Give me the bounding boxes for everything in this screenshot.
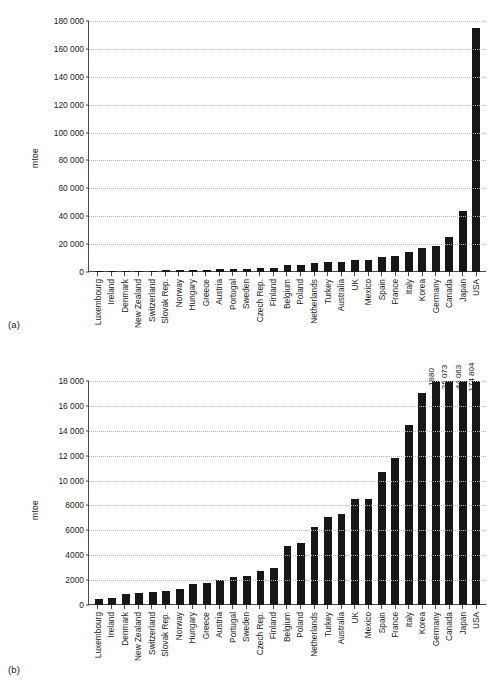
- x-tickmark: [124, 605, 125, 609]
- bar-slot: [173, 381, 186, 605]
- bar: [418, 248, 426, 272]
- x-tickmark: [219, 272, 220, 276]
- x-tickmark: [476, 272, 477, 276]
- bar: [135, 593, 143, 605]
- x-tickmark-slot: [375, 272, 389, 276]
- gridline: [89, 555, 486, 556]
- x-tickmark: [286, 605, 287, 609]
- bar-slot: [200, 381, 213, 605]
- x-tick-label: Switzerland: [148, 279, 156, 322]
- x-tick-label: Poland: [296, 279, 304, 305]
- x-tick-label: Sweden: [242, 612, 250, 642]
- bar: [216, 580, 224, 605]
- gridline: [89, 77, 486, 78]
- x-tickmark: [259, 605, 260, 609]
- x-tick-label: Greece: [202, 279, 210, 306]
- x-tick-label: Korea: [418, 612, 426, 634]
- bar-slot: [470, 21, 483, 272]
- x-tick-label: Canada: [445, 279, 453, 308]
- x-tickmark-slot: [361, 605, 375, 609]
- gridline: [89, 580, 486, 581]
- x-tickmark-slot: [186, 605, 200, 609]
- bar-slot: [227, 381, 240, 605]
- bar-slot: [119, 381, 132, 605]
- x-tickmark: [232, 605, 233, 609]
- y-tick-label: 180 000: [54, 17, 89, 25]
- bar-slot: 174 804: [470, 381, 483, 605]
- x-tick-label: Finland: [269, 612, 277, 639]
- bar-slot: [416, 21, 429, 272]
- gridline: [89, 160, 486, 161]
- x-tickmark: [286, 272, 287, 276]
- x-tick-label: Italy: [404, 279, 412, 294]
- x-tickmark: [138, 272, 139, 276]
- x-tick-label: Japan: [459, 279, 467, 302]
- x-tickmark: [192, 605, 193, 609]
- bar-value-label: 44 063: [455, 365, 463, 389]
- x-tick-label: Australia: [337, 612, 345, 644]
- bar-slot: [362, 21, 375, 272]
- x-tick-label: UK: [350, 612, 358, 624]
- gridline: [89, 431, 486, 432]
- x-tickmark-slot: [105, 272, 119, 276]
- x-tickmark: [395, 272, 396, 276]
- x-tickmarks-a: [88, 272, 486, 276]
- x-tickmark: [476, 605, 477, 609]
- x-tick-label: Belgium: [283, 279, 291, 309]
- bar-slot: 25 073: [443, 381, 456, 605]
- bar-slot: [105, 381, 118, 605]
- x-tick-label: Portugal: [229, 612, 237, 643]
- x-tickmark-slot: [118, 605, 132, 609]
- x-tickmark-slot: [186, 272, 200, 276]
- bar: [405, 252, 413, 272]
- x-tickmark-slot: [159, 605, 173, 609]
- bar-slot: [416, 381, 429, 605]
- x-tickmark-slot: [105, 605, 119, 609]
- bar-value-label: 1980: [428, 368, 436, 386]
- x-tickmark-slot: [402, 605, 416, 609]
- bar: [176, 589, 184, 605]
- bar: 44 063: [459, 381, 467, 605]
- bar-slot: [227, 21, 240, 272]
- x-tickmark: [435, 272, 436, 276]
- bar-slot: [159, 21, 172, 272]
- bar: [189, 584, 197, 605]
- x-tickmark: [246, 272, 247, 276]
- x-tickmark: [205, 272, 206, 276]
- x-tickmark-slot: [456, 605, 470, 609]
- bar-slot: [375, 21, 388, 272]
- plot-area-a: 020 00040 00060 00080 000100 000120 0001…: [88, 21, 486, 272]
- gridline: [89, 188, 486, 189]
- x-tickmark-slot: [469, 272, 483, 276]
- bar: [338, 262, 346, 272]
- bar-series-a: [89, 21, 486, 272]
- bar-slot: [429, 21, 442, 272]
- x-tickmark-slot: [253, 605, 267, 609]
- x-tick-label: Mexico: [364, 279, 372, 305]
- y-tick-label: 10 000: [58, 476, 89, 484]
- bar-slot: [362, 381, 375, 605]
- x-tickmark-slot: [240, 605, 254, 609]
- bar: [297, 265, 305, 272]
- x-tickmark-slot: [240, 272, 254, 276]
- x-tick-label: UK: [350, 279, 358, 291]
- x-tick-label: Australia: [337, 279, 345, 311]
- x-tickmark: [111, 605, 112, 609]
- bar: [230, 577, 238, 605]
- bar-slot: [389, 21, 402, 272]
- x-tickmark-slot: [159, 272, 173, 276]
- y-tick-label: 20 000: [58, 240, 89, 248]
- x-tickmark: [273, 272, 274, 276]
- x-tick-label: Denmark: [121, 612, 129, 646]
- gridline: [89, 49, 486, 50]
- x-tickmark: [300, 605, 301, 609]
- bar-slot: [402, 381, 415, 605]
- bar: [257, 571, 265, 605]
- x-tickmark: [408, 272, 409, 276]
- bar-slot: [159, 381, 172, 605]
- x-tick-label: Luxembourg: [94, 612, 102, 658]
- x-tickmark-slot: [429, 272, 443, 276]
- x-tickmark: [138, 605, 139, 609]
- x-tickmark-slot: [91, 272, 105, 276]
- x-tickmark: [246, 605, 247, 609]
